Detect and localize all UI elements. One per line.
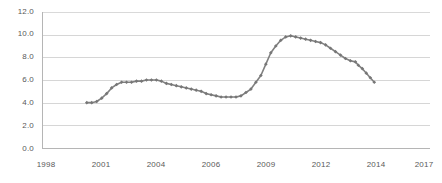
x-tick-label: 2017 xyxy=(404,160,442,169)
x-tick-label: 2004 xyxy=(136,160,176,169)
x-tick-label: 2009 xyxy=(246,160,286,169)
x-tick-label: 1998 xyxy=(26,160,66,169)
x-tick-label: 2006 xyxy=(191,160,231,169)
chart-container: 12.0 10.0 8.0 6.0 4.0 2.0 0.0 1998 2001 … xyxy=(0,0,442,183)
x-tick-label: 2012 xyxy=(301,160,341,169)
x-axis-labels: 1998 2001 2004 2006 2009 2012 2014 2017 xyxy=(0,0,442,183)
x-tick-label: 2001 xyxy=(81,160,121,169)
x-tick-label: 2014 xyxy=(356,160,396,169)
